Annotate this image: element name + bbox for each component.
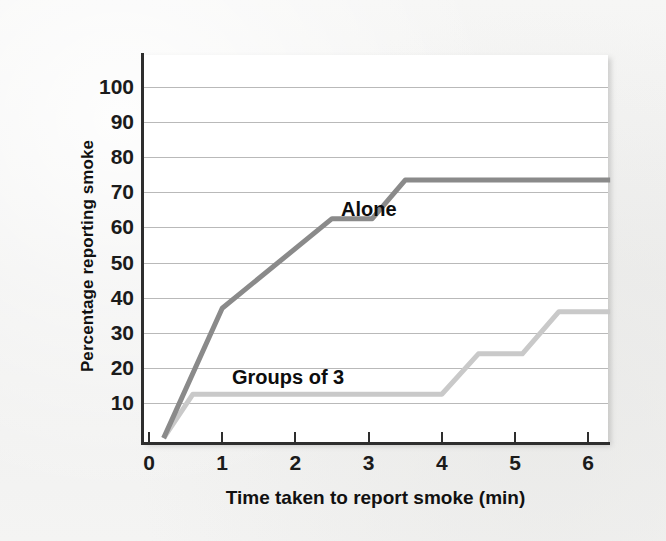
x-tick-label-1: 1 [202, 452, 242, 473]
y-tick-label-100: 100 [78, 76, 134, 97]
series-annotation-groups-of-3: Groups of 3 [232, 366, 344, 389]
x-tick-mark-4 [441, 432, 443, 443]
x-tick-mark-5 [514, 432, 516, 443]
x-tick-mark-0 [148, 432, 150, 443]
x-tick-label-0: 0 [129, 452, 169, 473]
plot-area [143, 55, 608, 443]
series-line-groups-of-3 [164, 312, 611, 438]
y-axis-line [141, 53, 144, 445]
x-tick-mark-3 [368, 432, 370, 443]
x-tick-label-4: 4 [422, 452, 462, 473]
x-tick-mark-6 [587, 432, 589, 443]
series-annotation-alone: Alone [341, 198, 397, 221]
x-tick-label-2: 2 [275, 452, 315, 473]
x-tick-label-5: 5 [495, 452, 535, 473]
x-tick-mark-2 [294, 432, 296, 443]
x-tick-label-3: 3 [349, 452, 389, 473]
chart-figure: 102030405060708090100 0123456 Percentage… [0, 0, 666, 541]
y-axis-title: Percentage reporting smoke [78, 106, 98, 406]
x-axis-title: Time taken to report smoke (min) [143, 487, 608, 509]
x-axis-line [141, 442, 610, 445]
x-tick-mark-1 [221, 432, 223, 443]
x-tick-label-6: 6 [568, 452, 608, 473]
data-series-layer [143, 55, 608, 443]
